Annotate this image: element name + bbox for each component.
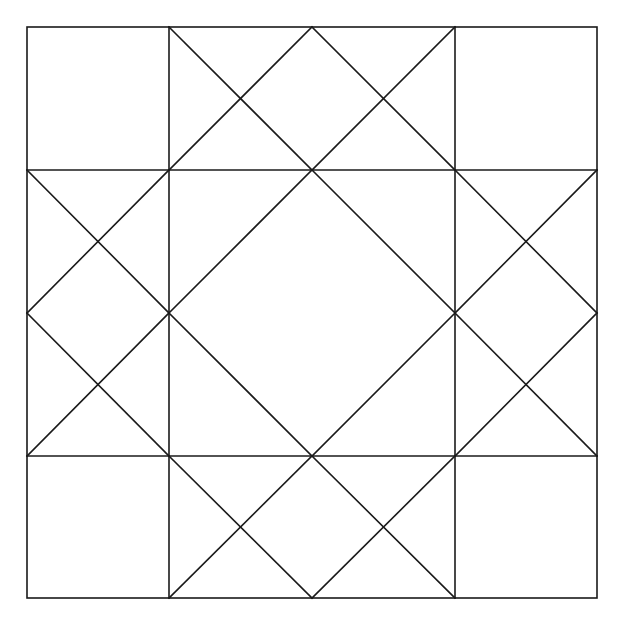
left-flying-geese: [27, 170, 169, 456]
grid-lines: [27, 27, 597, 598]
right-flying-geese: [455, 170, 597, 456]
center-diamond: [169, 170, 455, 456]
bottom-flying-geese: [169, 456, 455, 598]
outer-border: [27, 27, 597, 598]
quilt-block-diagram: [0, 0, 624, 627]
top-flying-geese: [169, 27, 455, 170]
